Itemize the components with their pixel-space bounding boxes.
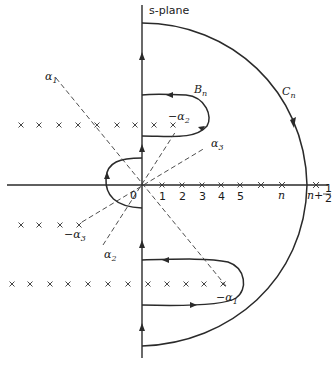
pole-marker-icon — [57, 123, 62, 128]
alpha1-line — [56, 78, 226, 286]
plane-label: s-plane — [149, 4, 189, 17]
tick-label: 2 — [179, 190, 186, 203]
pole-marker-icon — [146, 282, 151, 287]
pole-row-upper — [19, 123, 176, 128]
arrow-icon — [190, 302, 197, 308]
arrow-icon — [139, 240, 145, 248]
n-half-label: n+ — [307, 189, 323, 202]
pole-marker-icon — [133, 123, 138, 128]
arrow-icon — [139, 323, 145, 331]
n-label: n — [278, 189, 285, 202]
pole-marker-icon — [115, 123, 120, 128]
tick-label: 5 — [237, 190, 244, 203]
pole-marker-icon — [77, 223, 82, 228]
pole-marker-icon — [37, 223, 42, 228]
pole-marker-icon — [165, 282, 170, 287]
alpha2-label: α2 — [104, 248, 117, 263]
pole-marker-icon — [126, 282, 131, 287]
pole-row-middle — [19, 223, 82, 228]
arrow-icon — [104, 172, 110, 179]
arrow-icon — [139, 144, 145, 152]
pole-marker-icon — [37, 123, 42, 128]
pole-marker-icon — [19, 223, 24, 228]
pole-marker-icon — [152, 123, 157, 128]
pole-marker-icon — [66, 282, 71, 287]
pole-marker-icon — [106, 282, 111, 287]
n-half-den: 2 — [325, 192, 332, 205]
alpha2-line — [103, 131, 176, 245]
alpha1-label: α1 — [45, 70, 58, 85]
neg-alpha1-label: −α1 — [216, 291, 238, 306]
pole-marker-icon — [86, 282, 91, 287]
tick-label: 4 — [218, 190, 225, 203]
tick-label: 3 — [199, 190, 206, 203]
pole-marker-icon — [10, 282, 15, 287]
pole-marker-icon — [28, 282, 33, 287]
pole-row-lower — [10, 282, 226, 287]
pole-marker-icon — [76, 123, 81, 128]
pole-marker-icon — [48, 282, 53, 287]
contour-b-label: Bn — [193, 83, 207, 98]
arrow-icon — [162, 257, 169, 263]
alpha3-label: α3 — [211, 137, 224, 152]
tick-label: 1 — [159, 190, 166, 203]
origin-label: 0 — [130, 189, 137, 202]
pole-marker-icon — [58, 223, 63, 228]
pole-marker-icon — [19, 123, 24, 128]
arrow-icon — [139, 52, 145, 60]
arrow-icon — [166, 92, 173, 98]
pole-marker-icon — [95, 123, 100, 128]
pole-marker-icon — [171, 123, 176, 128]
contour-c-label: Cn — [282, 85, 296, 100]
neg-alpha3-label: −α3 — [64, 228, 86, 243]
s-plane-diagram: s-plane Cn Bn α1 α2 α3 −α1 −α2 −α3 0 123… — [0, 0, 335, 368]
pole-marker-icon — [202, 282, 207, 287]
pole-marker-icon — [184, 282, 189, 287]
